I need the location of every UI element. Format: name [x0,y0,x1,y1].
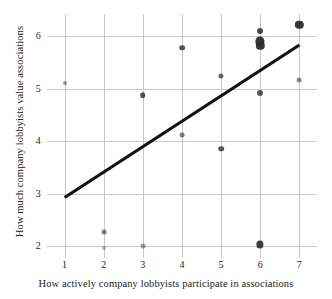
x-tick-label-6: 6 [258,260,263,270]
y-tick-label-4: 4 [36,136,41,146]
data-point [179,45,185,51]
data-point [180,133,185,138]
data-point [257,28,263,34]
x-tick-label-1: 1 [62,260,67,270]
data-point [140,244,145,249]
y-tick-label-5: 5 [36,84,41,94]
scatter-chart: 23456 1234567 How actively company lobby… [0,0,332,299]
x-tick-label-7: 7 [297,260,302,270]
y-tick-label-6: 6 [36,31,41,41]
x-axis-title: How actively company lobbyists participa… [0,278,332,289]
plot-area [47,14,317,258]
x-tick-label-5: 5 [219,260,224,270]
y-axis-tick-labels: 23456 [25,14,41,258]
y-axis-title: How much company lobbyists value associa… [14,7,25,257]
data-point [140,92,146,98]
data-point [257,90,263,96]
x-tick-label-3: 3 [140,260,145,270]
data-point [102,246,106,250]
y-tick-label-2: 2 [36,241,41,251]
x-tick-label-4: 4 [179,260,184,270]
data-point [218,146,224,152]
y-tick-label-3: 3 [36,189,41,199]
data-point [63,81,67,85]
x-axis-tick-labels: 1234567 [47,260,317,274]
x-tick-label-2: 2 [101,260,106,270]
data-point [297,77,302,82]
data-point [101,229,106,234]
